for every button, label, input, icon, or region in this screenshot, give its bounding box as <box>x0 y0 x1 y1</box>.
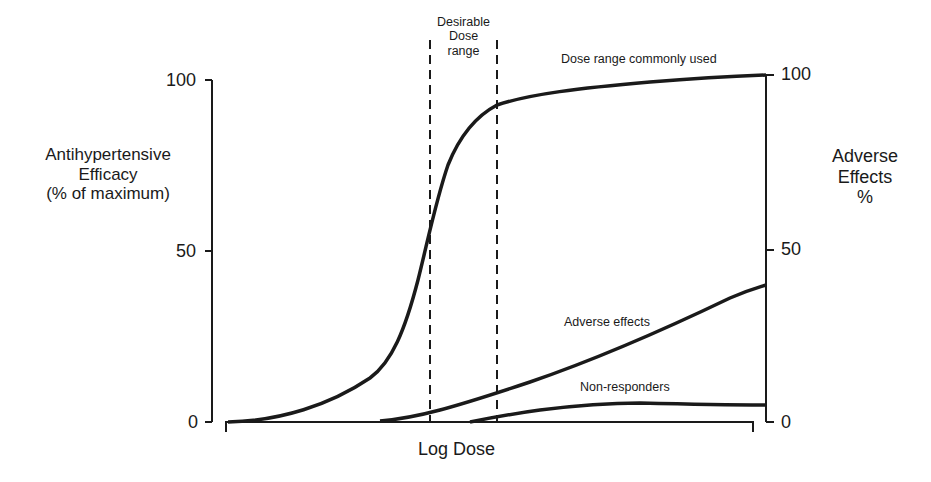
dose-range-commonly-used-annotation: Dose range commonly used <box>561 52 717 66</box>
desirable-line-3: range <box>430 44 497 58</box>
desirable-dose-range-lines <box>430 40 497 422</box>
right-y-label-line-1: Adverse <box>810 146 920 167</box>
right-y-label-line-3: % <box>810 187 920 208</box>
right-tick-100: 100 <box>781 64 811 85</box>
left-y-axis <box>205 80 212 422</box>
left-y-axis-label: Antihypertensive Efficacy (% of maximum) <box>28 145 188 204</box>
left-tick-100: 100 <box>166 70 196 91</box>
left-y-label-line-1: Antihypertensive <box>28 145 188 165</box>
right-tick-50: 50 <box>781 239 801 260</box>
left-y-label-line-3: (% of maximum) <box>28 184 188 204</box>
x-axis <box>226 421 753 432</box>
desirable-line-2: Dose <box>430 29 497 43</box>
right-y-axis-label: Adverse Effects % <box>810 146 920 208</box>
left-tick-50: 50 <box>176 241 196 262</box>
left-y-label-line-2: Efficacy <box>28 165 188 185</box>
non-responders-annotation: Non-responders <box>580 380 670 394</box>
right-y-label-line-2: Effects <box>810 167 920 188</box>
left-tick-0: 0 <box>188 412 198 433</box>
adverse-effects-annotation: Adverse effects <box>564 315 650 329</box>
right-tick-0: 0 <box>781 412 791 433</box>
non-responders-curve <box>470 403 766 422</box>
right-y-axis <box>766 75 774 422</box>
desirable-dose-range-annotation: Desirable Dose range <box>430 15 497 58</box>
x-axis-label: Log Dose <box>418 439 495 460</box>
desirable-line-1: Desirable <box>430 15 497 29</box>
efficacy-curve <box>228 75 766 422</box>
adverse-effects-curve <box>380 285 766 421</box>
